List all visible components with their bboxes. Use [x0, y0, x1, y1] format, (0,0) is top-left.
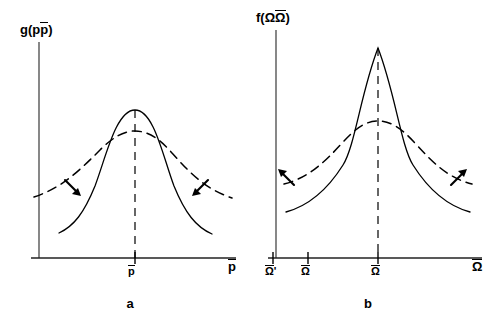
- figure-container: g(pp) p p a: [0, 0, 496, 323]
- panel-b-caption: b: [358, 296, 378, 311]
- panel-a-tick-label-center-overbar: p: [128, 265, 135, 277]
- panel-a-right-transition-arrow: [192, 180, 208, 196]
- panel-b-left-transition-arrow: [278, 169, 294, 185]
- panel-a-x-axis-label: p: [228, 259, 236, 274]
- panel-a-left-transition-arrow: [65, 180, 81, 196]
- panel-a-y-axis-label-suffix: ): [48, 22, 52, 37]
- panel-b-tick-label-1: Ω': [265, 265, 276, 277]
- panel-b-y-axis-label-suffix: ): [286, 10, 290, 25]
- panel-b-tick-label-2: Ω: [301, 265, 310, 277]
- panel-a: g(pp) p p a: [0, 0, 248, 323]
- panel-b-y-axis-label: f(ΩΩ): [256, 10, 290, 25]
- panel-b-x-axis-label: Ω: [472, 259, 482, 274]
- panel-a-broad-dashed-curve: [34, 131, 232, 198]
- panel-b-tick-label-1-overbar: Ω: [265, 265, 274, 277]
- panel-b-tick-label-center: Ω: [371, 265, 380, 277]
- panel-a-y-axis-label-overbar: p: [40, 22, 48, 36]
- panel-b-tick-label-2-overbar: Ω: [301, 265, 310, 277]
- panel-a-x-axis-label-overbar: p: [228, 259, 236, 273]
- panel-b-tick-label-center-overbar: Ω: [371, 265, 380, 277]
- panel-b-y-axis-label-overbar: Ω: [275, 10, 285, 24]
- panel-b-y-axis-label-prefix: f(Ω: [256, 10, 275, 25]
- panel-a-y-axis-label-prefix: g(p: [20, 22, 40, 37]
- panel-a-y-axis-label: g(pp): [20, 22, 53, 37]
- panel-b-x-axis-label-overbar: Ω: [472, 259, 482, 273]
- panel-b-tick-label-1-prime: ': [274, 265, 277, 277]
- panel-a-caption: a: [120, 296, 140, 311]
- panel-a-graphics: [0, 0, 248, 323]
- panel-a-tick-label-center: p: [128, 265, 135, 277]
- panel-b-narrow-solid-curve: [286, 48, 470, 212]
- panel-b: f(ΩΩ) Ω' Ω Ω Ω b: [248, 0, 496, 323]
